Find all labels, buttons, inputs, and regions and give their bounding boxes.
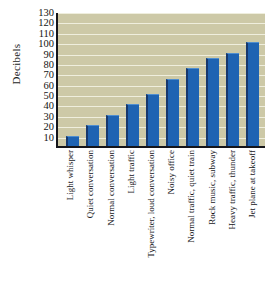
x-tick-label: Normal traffic, quiet train: [187, 150, 196, 243]
y-tick-label: 120: [38, 18, 54, 28]
bar-slot: [202, 13, 222, 146]
x-tick-label: Quiet conversation: [86, 150, 95, 218]
x-axis-category-labels: Light whisperQuiet conversationNormal co…: [56, 150, 265, 296]
bar-slot: [142, 13, 162, 146]
y-tick-label: 100: [38, 39, 54, 49]
bar: [166, 79, 179, 147]
y-axis-tick-labels: 130120110100908070605040302010: [28, 12, 54, 148]
x-tick-label: Jet plane at takeoff: [247, 150, 256, 218]
x-label-slot: Quiet conversation: [80, 150, 100, 296]
bar: [86, 125, 99, 146]
x-tick-label: Rock music, subway: [207, 150, 216, 225]
bar: [106, 115, 119, 146]
x-label-slot: Typewriter, loud conversation: [141, 150, 161, 296]
bar: [66, 136, 79, 146]
bar: [226, 53, 239, 146]
x-label-slot: Light traffic: [121, 150, 141, 296]
x-tick-label: Light traffic: [126, 150, 135, 194]
bar-slot: [242, 13, 262, 146]
x-tick-label: Noisy office: [167, 150, 176, 195]
bar-slot: [162, 13, 182, 146]
x-tick-label: Typewriter, loud conversation: [146, 150, 155, 258]
y-axis-title: Decibels: [10, 26, 22, 102]
bar-series: [58, 13, 265, 146]
bar: [146, 94, 159, 146]
bar-slot: [122, 13, 142, 146]
x-label-slot: Jet plane at takeoff: [242, 150, 262, 296]
x-tick-label: Normal conversation: [106, 150, 115, 226]
bar: [206, 58, 219, 146]
bar-slot: [182, 13, 202, 146]
x-label-slot: Rock music, subway: [201, 150, 221, 296]
bar: [126, 104, 139, 146]
y-tick-label: 70: [44, 70, 55, 80]
bar-slot: [222, 13, 242, 146]
bar: [186, 68, 199, 146]
y-tick-label: 40: [44, 101, 55, 111]
decibel-bar-chart: Decibels 130120110100908070605040302010 …: [0, 0, 274, 296]
bar-slot: [102, 13, 122, 146]
bar: [246, 42, 259, 146]
bar-slot: [82, 13, 102, 146]
bar-slot: [62, 13, 82, 146]
y-tick-label: 20: [44, 122, 55, 132]
x-label-slot: Normal conversation: [100, 150, 120, 296]
x-tick-label: Light whisper: [66, 150, 75, 200]
plot-area: [56, 13, 265, 148]
x-label-slot: Heavy traffic, thunder: [222, 150, 242, 296]
x-label-slot: Noisy office: [161, 150, 181, 296]
x-label-slot: Light whisper: [60, 150, 80, 296]
x-tick-label: Heavy traffic, thunder: [227, 150, 236, 230]
x-label-slot: Normal traffic, quiet train: [181, 150, 201, 296]
y-tick-label: 10: [44, 133, 55, 143]
